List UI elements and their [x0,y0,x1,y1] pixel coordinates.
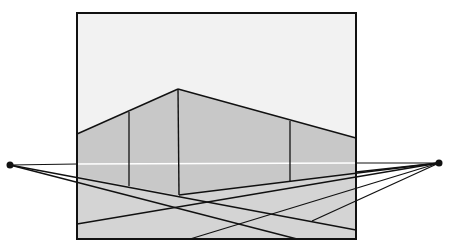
vanishing-point-left [7,162,14,169]
horizon-line-inside [77,163,356,164]
vanishing-point-right [436,160,443,167]
front-corner-edge [178,89,179,195]
perspective-canvas [0,0,451,243]
horizon-line-left [10,164,77,165]
perspective-diagram: Two-point perspective construction [0,0,451,243]
